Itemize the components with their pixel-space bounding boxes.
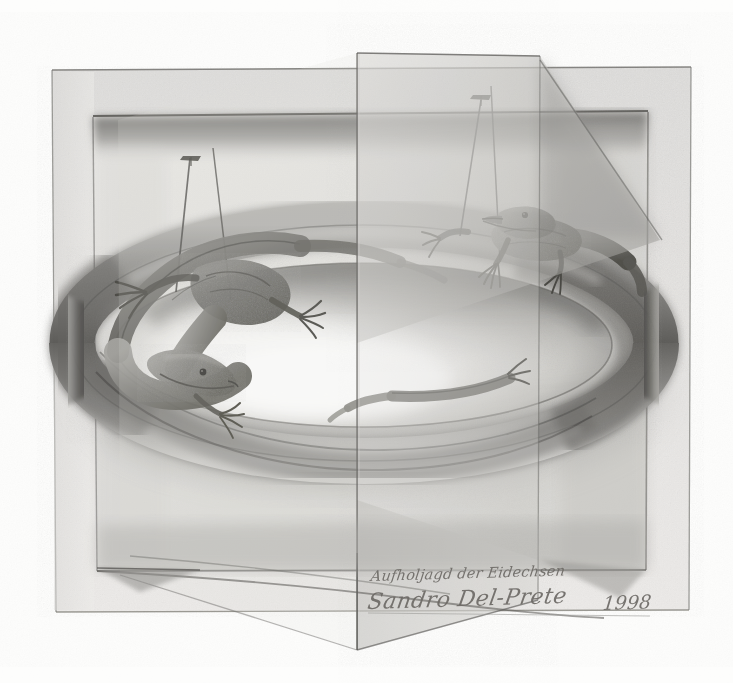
artwork-canvas: Aufholjagd der Eidechsen Sandro Del-Pret…: [0, 0, 733, 683]
drawing-surface: [0, 0, 733, 683]
paper-grain-overlay: [0, 0, 733, 683]
